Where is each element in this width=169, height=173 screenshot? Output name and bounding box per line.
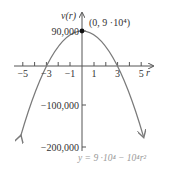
y-tick-label-neg100000: −100,000 bbox=[41, 100, 79, 111]
equation-label: y = 9 ·10⁴ − 10⁴r² bbox=[77, 153, 146, 163]
y-tick-label-neg200000: −200,000 bbox=[41, 142, 79, 153]
x-tick-label-neg1: −1 bbox=[65, 68, 76, 79]
x-tick-label-5: 5 bbox=[139, 68, 144, 79]
y-axis-label: v(r) bbox=[61, 10, 77, 22]
x-tick-label-1: 1 bbox=[92, 68, 97, 79]
x-tick-label-3: 3 bbox=[115, 68, 120, 79]
y-ticks bbox=[82, 31, 86, 147]
x-axis-label: r bbox=[146, 67, 150, 78]
x-tick-label-neg5: −5 bbox=[17, 68, 28, 79]
x-tick-label-neg3: −3 bbox=[41, 68, 52, 79]
vertex-point bbox=[80, 29, 85, 34]
vertex-label: (0, 9 ·10⁴) bbox=[89, 17, 130, 29]
parabola-chart: v(r) r (0, 9 ·10⁴) 90,000 −100,000 −200,… bbox=[0, 0, 169, 173]
y-tick-label-90000: 90,000 bbox=[52, 26, 80, 37]
